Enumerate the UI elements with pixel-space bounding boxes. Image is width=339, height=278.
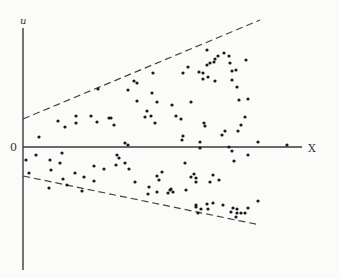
- data-point: [234, 215, 237, 218]
- data-point: [47, 186, 50, 189]
- data-point: [235, 207, 238, 210]
- data-point: [246, 206, 249, 209]
- data-point: [123, 141, 126, 144]
- data-point: [92, 164, 95, 167]
- data-point: [197, 70, 200, 73]
- data-point: [37, 135, 40, 138]
- data-point: [89, 114, 92, 117]
- data-point: [243, 115, 246, 118]
- data-point: [150, 91, 153, 94]
- data-point: [237, 98, 240, 101]
- y-axis-label: u: [20, 15, 26, 26]
- data-point: [221, 203, 224, 206]
- data-point: [127, 167, 130, 170]
- data-point: [174, 114, 177, 117]
- data-point: [115, 153, 118, 156]
- data-point: [183, 161, 186, 164]
- origin-label: 0: [10, 141, 17, 154]
- data-point: [147, 185, 150, 188]
- data-point: [194, 205, 197, 208]
- data-point: [189, 100, 192, 103]
- data-point: [222, 51, 225, 54]
- data-point: [228, 61, 231, 64]
- data-point: [151, 71, 154, 74]
- data-point: [229, 210, 232, 213]
- data-point: [208, 61, 211, 64]
- data-point: [232, 159, 235, 162]
- data-point: [198, 146, 201, 149]
- data-point: [82, 175, 85, 178]
- data-point: [184, 188, 187, 191]
- scatter-plot-canvas: u 0 X: [0, 0, 339, 278]
- data-point: [211, 173, 214, 176]
- data-point: [205, 63, 208, 66]
- data-point: [230, 69, 233, 72]
- data-point: [80, 189, 83, 192]
- data-point: [123, 161, 126, 164]
- data-point: [112, 123, 115, 126]
- data-point: [256, 140, 259, 143]
- data-point: [60, 151, 63, 154]
- data-point: [220, 133, 223, 136]
- data-point: [198, 140, 201, 143]
- data-point: [166, 191, 169, 194]
- data-point: [157, 178, 160, 181]
- data-point: [181, 134, 184, 137]
- data-point: [199, 207, 202, 210]
- data-point: [223, 129, 226, 132]
- data-point: [160, 170, 163, 173]
- data-point: [153, 121, 156, 124]
- data-point: [102, 167, 105, 170]
- data-point: [202, 121, 205, 124]
- data-point: [230, 78, 233, 81]
- data-point: [155, 190, 158, 193]
- data-point: [49, 168, 52, 171]
- data-point: [126, 143, 129, 146]
- data-point: [155, 100, 158, 103]
- data-point: [143, 115, 146, 118]
- data-point: [216, 54, 219, 57]
- data-point: [27, 171, 30, 174]
- data-point: [96, 87, 99, 90]
- data-point: [227, 145, 230, 148]
- data-point: [74, 114, 77, 117]
- data-point: [205, 48, 208, 51]
- data-point: [171, 190, 174, 193]
- data-point: [74, 121, 77, 124]
- data-point: [239, 211, 242, 214]
- data-point: [73, 171, 76, 174]
- data-point: [181, 71, 184, 74]
- data-point: [236, 129, 239, 132]
- data-point: [133, 180, 136, 183]
- data-point: [92, 179, 95, 182]
- data-point: [48, 158, 51, 161]
- data-point: [34, 153, 37, 156]
- data-point: [217, 178, 220, 181]
- data-point: [235, 85, 238, 88]
- data-point: [63, 125, 66, 128]
- data-point: [117, 156, 120, 159]
- data-point: [244, 58, 247, 61]
- data-point: [208, 180, 211, 183]
- data-point: [227, 54, 230, 57]
- data-point: [56, 119, 59, 122]
- data-point: [246, 97, 249, 100]
- data-point: [205, 202, 208, 205]
- data-point: [145, 109, 148, 112]
- data-point: [235, 211, 238, 214]
- data-point: [206, 75, 209, 78]
- data-point: [109, 116, 112, 119]
- data-point: [201, 71, 204, 74]
- data-point: [61, 177, 64, 180]
- data-point: [243, 211, 246, 214]
- data-point: [211, 201, 214, 204]
- data-point: [170, 103, 173, 106]
- data-point: [65, 183, 68, 186]
- data-point: [95, 120, 98, 123]
- data-point: [126, 88, 129, 91]
- data-point: [58, 161, 61, 164]
- data-point: [230, 149, 233, 152]
- data-point: [135, 81, 138, 84]
- residual-scatter-diagram: u 0 X: [0, 0, 339, 278]
- data-point: [186, 65, 189, 68]
